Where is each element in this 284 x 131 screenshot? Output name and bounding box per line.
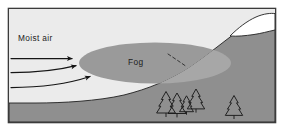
orographic-fog-diagram: Moist air Fog bbox=[0, 0, 284, 131]
label-moist-air: Moist air bbox=[18, 33, 53, 43]
label-fog: Fog bbox=[128, 57, 143, 67]
figure-root: Moist air Fog bbox=[0, 0, 284, 131]
